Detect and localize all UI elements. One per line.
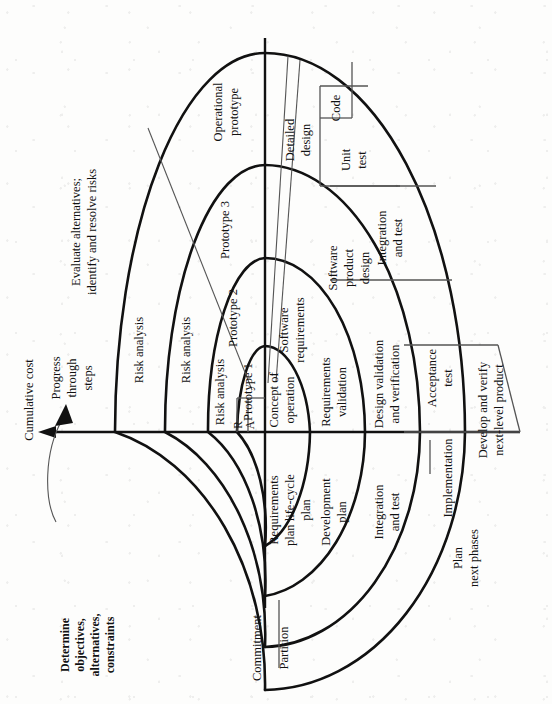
label-acceptance-test-line2: test: [441, 369, 455, 387]
label-design-validation-line1: Design validation: [372, 339, 386, 428]
label-design-validation-line2: and verification: [388, 344, 402, 424]
spiral-model-diagram: Cumulative cost Progress through steps E…: [0, 0, 552, 704]
label-prototype-1: Prototype 1: [241, 363, 255, 421]
label-requirements-validation-line2: validation: [335, 366, 349, 417]
label-detailed-design-line2: design: [299, 123, 313, 156]
label-detailed-design-line1: Detailed: [283, 118, 297, 161]
label-evaluate-alternatives-line1: Evaluate alternatives;: [69, 178, 83, 286]
label-prototype-2: Prototype 2: [226, 289, 240, 347]
label-plan-next-phases-line2: next phases: [467, 529, 481, 587]
label-determine-line4: constraints: [103, 616, 117, 673]
label-develop-verify-line1: Develop and verify: [476, 361, 490, 458]
label-determine-line3: alternatives,: [88, 614, 102, 677]
label-implementation: Implementation: [441, 438, 455, 518]
label-plan-next-phases-line1: Plan: [451, 546, 465, 569]
label-risk-analysis-inner: Risk analysis: [213, 359, 227, 425]
label-integration-and-test-eng-line1: Integration: [375, 210, 389, 266]
label-integration-and-test-eng-line2: and test: [391, 218, 405, 257]
label-develop-verify-line2: next-level product: [492, 364, 506, 456]
label-unit-test-line2: test: [355, 151, 369, 169]
label-software-requirements-line2: requirements: [293, 297, 307, 362]
label-operational-prototype-line2: prototype: [227, 88, 241, 136]
label-software-product-design-line1: Software: [326, 245, 340, 291]
label-concept-of-operation-line2: operation: [283, 376, 297, 424]
label-requirements-plan-line1: Requirements: [267, 475, 281, 545]
label-operational-prototype-line1: Operational: [211, 82, 225, 142]
progress-arrow-head: [55, 404, 73, 426]
label-partition: Partition: [277, 626, 291, 670]
label-risk-analysis-middle: Risk analysis: [179, 317, 193, 383]
label-development-plan-line1: Development: [319, 478, 333, 546]
cumulative-cost-arrowhead: [38, 426, 56, 438]
label-determine-line1: Determine: [58, 617, 72, 672]
label-risk-abbrev-r: R: [232, 421, 244, 429]
label-requirements-validation-line1: Requirements: [319, 357, 333, 427]
risk-sector-divider-left: [148, 128, 252, 390]
label-acceptance-test-line1: Acceptance: [425, 348, 439, 407]
label-software-product-design-line3: design: [358, 251, 372, 284]
label-evaluate-alternatives-line2: identify and resolve risks: [85, 169, 99, 295]
label-concept-of-operation-line1: Concept of: [267, 372, 281, 428]
spiral-diagram-canvas: Cumulative cost Progress through steps E…: [0, 0, 552, 704]
label-determine-line2: objectives,: [73, 618, 87, 672]
progress-arrow: [48, 404, 73, 522]
label-requirements-plan-line2: plan life-cycle: [283, 474, 297, 546]
label-progress-line2: through: [65, 358, 79, 398]
label-prototype-3: Prototype 3: [218, 201, 232, 259]
label-integration-and-test-plan-line1: Integration: [372, 484, 386, 540]
label-progress-line3: steps: [81, 365, 95, 390]
label-code: Code: [329, 94, 343, 121]
label-requirements-plan-line3: plan: [299, 498, 313, 520]
label-progress-line1: Progress: [49, 356, 63, 399]
label-cumulative-cost: Cumulative cost: [22, 359, 36, 441]
label-development-plan-line2: plan: [335, 500, 349, 522]
label-software-product-design-line2: product: [342, 248, 356, 287]
label-unit-test-line1: Unit: [339, 148, 353, 171]
label-integration-and-test-plan-line2: and test: [388, 492, 402, 531]
label-commitment: Commitment: [250, 614, 264, 681]
label-risk-analysis-outer: Risk analysis: [132, 317, 146, 383]
label-software-requirements-line1: Software: [277, 307, 291, 353]
